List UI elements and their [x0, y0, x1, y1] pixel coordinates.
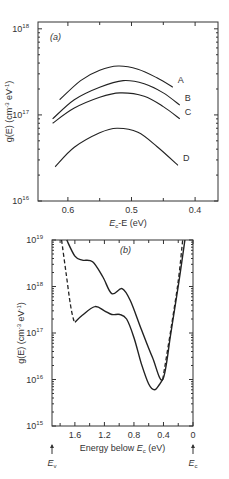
series-label-a: A: [178, 75, 184, 85]
x-tick-label: 1.6: [69, 430, 82, 440]
plot-frame: [52, 240, 193, 426]
panel-b: 1.61.20.80.4010151016101710181019g(E) (c…: [16, 234, 198, 469]
y-tick-label: 1016: [26, 374, 43, 385]
y-tick-label: 1017: [12, 109, 29, 120]
y-tick-label: 1016: [12, 195, 29, 206]
x-tick-label: 0: [190, 430, 195, 440]
annotation-ec: Ec: [188, 458, 197, 469]
series-line-dashed-right: [163, 240, 183, 380]
series-label-c: C: [185, 107, 192, 117]
x-tick-label: 0.8: [128, 430, 141, 440]
x-axis-label: Ec-E (eV): [109, 218, 147, 229]
y-tick-label: 1017: [26, 327, 43, 338]
series-line-upper-solid: [67, 240, 185, 380]
y-axis-label: g(E) (cm-3 eV-1): [16, 302, 26, 364]
x-tick-label: 0.4: [157, 430, 170, 440]
x-tick-label: 0.4: [189, 205, 202, 215]
x-axis-label: Energy below Ec (eV): [80, 443, 166, 454]
y-tick-label: 1018: [26, 281, 43, 292]
y-tick-label: 1019: [26, 234, 43, 245]
x-tick-label: 0.6: [62, 205, 75, 215]
series-line-d: [55, 128, 178, 167]
x-tick-label: 1.2: [98, 430, 111, 440]
panel-label: (a): [50, 32, 61, 42]
series-line-lower-solid: [75, 306, 163, 389]
panel-label: (b): [120, 245, 131, 255]
y-tick-label: 1015: [26, 420, 43, 431]
series-line-b: [53, 81, 180, 119]
arrow-up-icon: [191, 444, 195, 448]
y-axis-label: g(E) (cm-3 eV-1): [4, 81, 14, 143]
panel-a: 0.60.50.4101610171018g(E) (cm-3 eV-1)Ec-…: [4, 22, 218, 229]
arrow-up-icon: [50, 444, 54, 448]
series-line-a: [60, 66, 173, 100]
figure: 0.60.50.4101610171018g(E) (cm-3 eV-1)Ec-…: [0, 0, 229, 479]
series-line-c: [53, 93, 180, 123]
x-tick-label: 0.5: [125, 205, 138, 215]
series-label-b: B: [185, 93, 191, 103]
series-label-d: D: [183, 153, 190, 163]
y-tick-label: 1018: [12, 23, 29, 34]
annotation-ev: Ev: [47, 458, 56, 469]
